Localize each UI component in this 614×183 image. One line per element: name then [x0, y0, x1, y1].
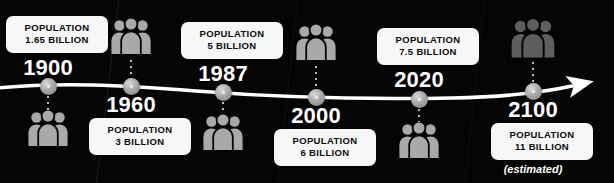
- year-label-2100: 2100: [491, 97, 575, 123]
- year-label-1960: 1960: [89, 92, 173, 118]
- people-group-icon: [200, 114, 246, 152]
- population-label-line2: 7.5 BILLION: [386, 46, 470, 58]
- population-label-2000: POPULATION 6 BILLION: [274, 129, 376, 166]
- year-label-1900: 1900: [6, 55, 90, 81]
- background-streak: [92, 0, 123, 183]
- timeline-node-1900[interactable]: [40, 78, 57, 95]
- milestone-2000: 2000 POPULATION 6 BILLION: [0, 0, 614, 183]
- population-label-line1: POPULATION: [283, 135, 367, 147]
- population-label-line2: 11 BILLION: [500, 141, 584, 153]
- node-connector-2100: [531, 60, 535, 84]
- population-timeline-infographic: POPULATION 1.65 BILLION 1900: [0, 0, 614, 183]
- milestone-2100: 2100 POPULATION 11 BILLION (estimated): [0, 0, 614, 183]
- population-label-1960: POPULATION 3 BILLION: [89, 118, 191, 155]
- timeline-axis: [0, 0, 614, 183]
- milestone-1960: 1960 POPULATION 3 BILLION: [0, 0, 614, 183]
- population-label-line1: POPULATION: [500, 129, 584, 141]
- year-label-1987: 1987: [181, 61, 265, 87]
- population-label-line1: POPULATION: [386, 34, 470, 46]
- background-streak: [274, 0, 301, 183]
- milestone-1987: POPULATION 5 BILLION 1987: [0, 0, 614, 183]
- population-label-line2: 5 BILLION: [190, 40, 274, 52]
- timeline-node-2020[interactable]: [411, 91, 428, 108]
- population-label-line2: 3 BILLION: [98, 136, 182, 148]
- year-label-2020: 2020: [377, 67, 461, 93]
- node-connector-2000: [314, 64, 318, 92]
- node-connector-1987: [221, 100, 225, 116]
- population-label-1987: POPULATION 5 BILLION: [181, 22, 283, 59]
- people-group-icon: [293, 24, 339, 62]
- population-label-line2: 6 BILLION: [283, 147, 367, 159]
- milestone-1900: POPULATION 1.65 BILLION 1900: [0, 0, 614, 183]
- population-label-line1: POPULATION: [190, 28, 274, 40]
- population-label-2100: POPULATION 11 BILLION: [491, 123, 593, 160]
- timeline-node-2000[interactable]: [308, 89, 325, 106]
- node-connector-1960: [129, 58, 133, 80]
- people-group-icon: [396, 122, 442, 160]
- milestone-2020: POPULATION 7.5 BILLION 2020: [0, 0, 614, 183]
- people-group-icon: [108, 18, 154, 56]
- population-label-2020: POPULATION 7.5 BILLION: [377, 28, 479, 65]
- estimated-note: (estimated): [491, 163, 575, 175]
- background-streak: [461, 0, 488, 183]
- year-label-2000: 2000: [274, 103, 358, 129]
- population-label-line1: POPULATION: [15, 22, 99, 34]
- population-label-1900: POPULATION 1.65 BILLION: [6, 16, 108, 53]
- people-group-icon: [25, 110, 71, 148]
- population-label-line2: 1.65 BILLION: [15, 34, 99, 46]
- people-group-icon: [508, 18, 558, 60]
- timeline-node-2100[interactable]: [525, 83, 542, 100]
- node-connector-1900: [46, 94, 50, 112]
- population-label-line1: POPULATION: [98, 124, 182, 136]
- timeline-node-1987[interactable]: [215, 84, 232, 101]
- node-connector-2020: [417, 107, 421, 124]
- timeline-node-1960[interactable]: [123, 78, 140, 95]
